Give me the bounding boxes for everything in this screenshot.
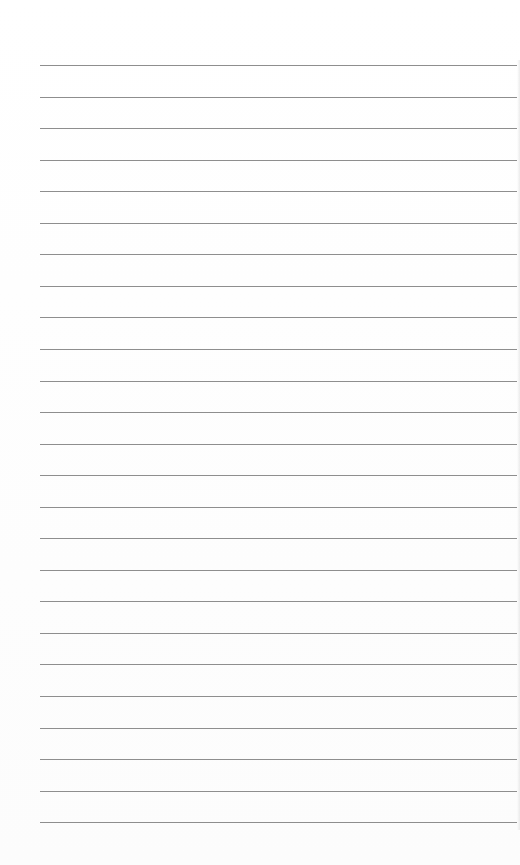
ruled-line — [40, 381, 517, 382]
ruled-line — [40, 475, 517, 476]
ruled-line — [40, 822, 517, 823]
ruled-line — [40, 538, 517, 539]
ruled-line — [40, 317, 517, 318]
ruled-line — [40, 160, 517, 161]
ruled-line — [40, 412, 517, 413]
ruled-line — [40, 191, 517, 192]
ruled-line — [40, 507, 517, 508]
ruled-line — [40, 601, 517, 602]
ruled-line — [40, 128, 517, 129]
ruled-line — [40, 97, 517, 98]
lined-paper-sheet — [0, 0, 520, 865]
ruled-line — [40, 254, 517, 255]
ruled-line — [40, 286, 517, 287]
ruled-line — [40, 759, 517, 760]
ruled-line — [40, 791, 517, 792]
ruled-line — [40, 696, 517, 697]
ruled-line — [40, 223, 517, 224]
ruled-line — [40, 349, 517, 350]
ruled-line — [40, 633, 517, 634]
ruled-line — [40, 728, 517, 729]
ruled-line — [40, 65, 517, 66]
ruled-line — [40, 444, 517, 445]
ruled-line — [40, 570, 517, 571]
ruled-line — [40, 664, 517, 665]
